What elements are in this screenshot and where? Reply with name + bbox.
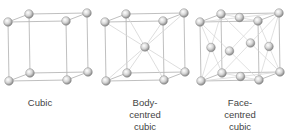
cubic-edge <box>66 21 67 80</box>
fcc-corner-atom <box>197 77 206 86</box>
fcc-edge <box>200 22 201 81</box>
bcc-center-atom <box>141 43 150 52</box>
fcc-corner-atom <box>196 18 205 27</box>
cubic-corner-atom <box>26 69 35 78</box>
bcc-corner-atom <box>180 9 189 18</box>
fcc-face-atom-right <box>265 42 274 51</box>
label-body-centred-cubic: Body- centred cubic <box>110 97 180 133</box>
bcc-corner-atom <box>160 76 169 85</box>
cubic-corner-atom <box>5 77 14 86</box>
bcc-corner-atom <box>159 17 168 26</box>
label-line: centred <box>205 109 275 121</box>
cubic-edge <box>29 14 30 73</box>
fcc-face-atom-back <box>246 39 255 48</box>
label-line: cubic <box>205 121 275 133</box>
fcc-corner-atom <box>218 69 227 78</box>
cubic-edge <box>30 72 88 73</box>
bcc-corner-atom <box>123 69 132 78</box>
label-line: Face- <box>205 97 275 109</box>
bcc-corner-atom <box>181 68 190 77</box>
fcc-face-atom-left <box>207 43 216 52</box>
bcc-edge <box>106 80 164 81</box>
label-line: cubic <box>110 121 180 133</box>
label-line: Body- <box>110 97 180 109</box>
bcc-edge <box>105 21 163 22</box>
fcc-corner-atom <box>275 9 284 18</box>
cubic-corner-atom <box>62 17 71 26</box>
fcc-corner-atom <box>254 17 263 26</box>
fcc-edge <box>279 13 280 72</box>
cubic-edge <box>9 80 67 81</box>
fcc-corner-atom <box>217 10 226 19</box>
bcc-corner-atom <box>102 77 111 86</box>
cubic-edge <box>29 13 87 14</box>
fcc-face-atom-bottom <box>236 72 245 81</box>
cubic-edge <box>8 22 9 81</box>
fcc-face-atom-front <box>225 47 234 56</box>
cubic-edge <box>8 21 66 22</box>
bcc-edge <box>184 13 185 72</box>
bcc-corner-atom <box>122 10 131 19</box>
cubic-corner-atom <box>63 76 72 85</box>
cubic-corner-atom <box>83 9 92 18</box>
bcc-edge <box>105 22 106 81</box>
label-line: Cubic <box>5 97 75 109</box>
bcc-edge <box>126 14 127 73</box>
fcc-corner-atom <box>276 68 285 77</box>
cubic-corner-atom <box>25 10 34 19</box>
label-cubic: Cubic <box>5 97 75 109</box>
bcc-edge <box>127 72 185 73</box>
bcc-corner-atom <box>101 18 110 27</box>
fcc-corner-atom <box>255 76 264 85</box>
label-face-centred-cubic: Face- centred cubic <box>205 97 275 133</box>
cubic-corner-atom <box>4 18 13 27</box>
label-line: centred <box>110 109 180 121</box>
cubic-corner-atom <box>84 68 93 77</box>
cubic-edge <box>87 13 88 72</box>
fcc-face-atom-top <box>235 13 244 22</box>
bcc-edge <box>126 13 184 14</box>
bcc-edge <box>163 21 164 80</box>
